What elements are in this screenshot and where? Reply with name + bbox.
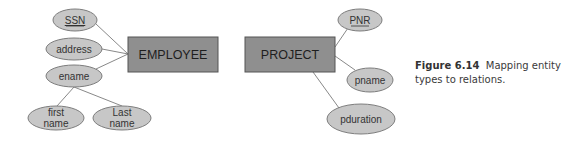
attribute-pduration: pduration [327,104,395,134]
first-name-connector [57,87,74,106]
attribute-address: address [46,38,102,60]
attribute-ename: ename [46,65,102,87]
attribute-ename-label: ename [59,71,90,82]
attribute-pname: pname [347,68,393,92]
attribute-ssn: SSN [53,9,97,31]
entity-project: PROJECT [245,37,335,72]
entity-employee: EMPLOYEE [128,37,218,72]
attribute-address-label: address [56,44,92,55]
attribute-pnr-label: PNR [349,15,370,26]
pname-connector [335,56,355,70]
attribute-first-name-line1: first [48,107,64,118]
attribute-pname-label: pname [355,75,386,86]
figure-caption: Figure 6.14 Mapping entity types to rela… [415,59,565,87]
entity-project-label: PROJECT [261,48,320,62]
pduration-connector [313,72,339,108]
attribute-last-name: Last name [93,106,151,130]
attribute-pnr: PNR [338,9,382,31]
attribute-ssn-label: SSN [65,15,86,26]
attribute-first-name-line2: name [43,118,68,129]
last-name-connector [74,87,122,106]
entity-employee-label: EMPLOYEE [139,48,208,62]
ename-connector [96,54,128,69]
pnr-connector [335,28,348,47]
attribute-first-name: first name [28,106,84,130]
attribute-last-name-line2: name [109,118,134,129]
figure-label: Figure 6.14 [415,60,479,71]
attribute-pduration-label: pduration [340,114,382,125]
attribute-last-name-line1: Last [113,107,132,118]
